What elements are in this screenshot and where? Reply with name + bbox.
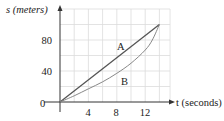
position-time-chart: s (meters) t (seconds) 0 4 8 12 80 40 A …: [0, 0, 224, 121]
curve-a-label: A: [117, 41, 125, 52]
y-axis-arrow-icon: [58, 5, 63, 11]
curve-a: [60, 25, 159, 103]
origin-label: 0: [40, 98, 45, 109]
curve-b-label: B: [121, 76, 128, 87]
grid: [60, 9, 170, 102]
y-tick-label-80: 80: [42, 35, 53, 46]
axes: [44, 5, 175, 112]
series: [60, 25, 159, 103]
x-axis-arrow-icon: [169, 100, 175, 105]
x-tick-label-4: 4: [85, 107, 91, 118]
y-tick-label-40: 40: [42, 66, 53, 77]
x-axis-label: t (seconds): [176, 97, 222, 109]
x-tick-label-8: 8: [113, 107, 118, 118]
y-axis-label: s (meters): [6, 4, 48, 16]
x-tick-label-12: 12: [140, 107, 151, 118]
